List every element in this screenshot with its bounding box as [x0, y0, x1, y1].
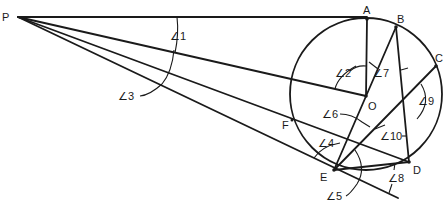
line-ao: [366, 19, 367, 96]
line-pe-tangent: [18, 17, 398, 198]
angle-3-leader: [140, 84, 162, 96]
angle-5-label: ∠5: [326, 190, 342, 202]
label-p: P: [2, 11, 9, 23]
line-ed: [334, 162, 409, 170]
angle-3-arc: [162, 50, 174, 84]
point-f: [291, 119, 294, 122]
point-c: [434, 64, 438, 68]
diagram-canvas: P A B C O D E F ∠1 ∠3 ∠2 ∠7 ∠9 ∠6 ∠10 ∠4…: [0, 0, 446, 208]
angle-8-leader: [389, 184, 392, 193]
label-a: A: [363, 4, 371, 16]
label-o: O: [368, 100, 377, 112]
angle-3-label: ∠3: [118, 90, 134, 102]
angle-8-label: ∠8: [388, 172, 404, 184]
point-o: [364, 94, 368, 98]
angle-7-leader: [401, 68, 408, 70]
angle-7-label: ∠7: [373, 67, 389, 79]
label-c: C: [435, 52, 443, 64]
point-b: [394, 25, 398, 29]
point-d: [407, 160, 411, 164]
label-b: B: [397, 13, 404, 25]
point-a: [365, 17, 369, 21]
line-po-secant: [18, 17, 366, 96]
angle-4-label: ∠4: [318, 137, 334, 149]
label-d: D: [413, 164, 421, 176]
angle-2-label: ∠2: [335, 67, 351, 79]
line-eb: [334, 27, 396, 170]
angle-6-label: ∠6: [322, 108, 338, 120]
angle-1-label: ∠1: [170, 30, 186, 42]
line-pd-secant: [18, 17, 409, 162]
geometry-diagram: P A B C O D E F ∠1 ∠3 ∠2 ∠7 ∠9 ∠6 ∠10 ∠4…: [0, 0, 446, 208]
angle-10-label: ∠10: [380, 130, 402, 142]
angle-9-label: ∠9: [418, 95, 434, 107]
angle-5-arc: [346, 150, 362, 196]
label-f: F: [282, 119, 289, 131]
point-e: [332, 168, 336, 172]
line-ec: [334, 66, 436, 170]
label-e: E: [320, 171, 327, 183]
